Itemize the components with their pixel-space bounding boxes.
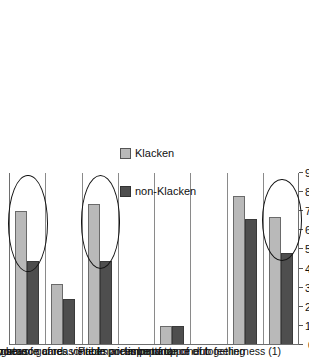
bar-klacken xyxy=(269,217,281,345)
axis-tick-label: 90 xyxy=(305,167,309,179)
bar-group: Importance of club feeling xyxy=(227,196,263,345)
legend-item: Klacken xyxy=(120,147,196,159)
axis-tick xyxy=(299,210,303,211)
legend-label: non-Klacken xyxy=(135,185,196,197)
legend-label: Klacken xyxy=(135,147,174,159)
bar-group: Knowledge of the game xyxy=(9,211,45,345)
bar-klacken xyxy=(88,204,100,345)
axis-tick-label: 30 xyxy=(305,282,309,294)
axis-tick-label: 40 xyxy=(305,263,309,275)
chart-legend: Klackennon-Klacken xyxy=(120,147,196,197)
bar-non-klacken xyxy=(63,299,75,345)
axis-tick xyxy=(299,268,303,269)
bar-non-klacken xyxy=(100,261,112,345)
axis-tick xyxy=(299,306,303,307)
axis-tick-label: 20 xyxy=(305,301,309,313)
axis-tick xyxy=(299,191,303,192)
bar-non-klacken xyxy=(245,219,257,345)
bar-klacken xyxy=(233,196,245,345)
bar-group: Prices are important xyxy=(154,326,190,345)
axis-tick-label: 10 xyxy=(305,320,309,332)
bar-non-klacken xyxy=(281,253,293,345)
bar-klacken xyxy=(51,284,63,345)
bar-non-klacken xyxy=(172,326,184,345)
axis-tick-label: 80 xyxy=(305,186,309,198)
legend-item: non-Klacken xyxy=(120,185,196,197)
axis-tick xyxy=(299,229,303,230)
category-separator xyxy=(118,173,119,345)
axis-tick-label: 70 xyxy=(305,205,309,217)
category-label: Importance of togetherness (1) xyxy=(137,345,281,357)
bar-group: Importance of togetherness (1) xyxy=(263,217,299,345)
light-gray-swatch xyxy=(120,148,131,159)
chart-stage: Knowledge of the gameWould buy season ca… xyxy=(0,0,309,361)
axis-tick-label: 60 xyxy=(305,224,309,236)
axis-tick xyxy=(299,172,303,173)
bar-group: Would buy season card xyxy=(45,284,81,345)
plot-area: Knowledge of the gameWould buy season ca… xyxy=(9,173,299,345)
bar-group: Number of games visited xyxy=(82,204,118,345)
bar-non-klacken xyxy=(27,261,39,345)
dark-gray-swatch xyxy=(120,186,131,197)
category-separator xyxy=(154,173,155,345)
bar-klacken xyxy=(15,211,27,345)
bar-klacken xyxy=(160,326,172,345)
axis-tick xyxy=(299,248,303,249)
axis-tick xyxy=(299,325,303,326)
axis-tick xyxy=(299,344,303,345)
axis-tick-label: 50 xyxy=(305,243,309,255)
bar-chart-figure: Knowledge of the gameWould buy season ca… xyxy=(0,0,309,361)
axis-tick-label: 0 xyxy=(308,339,309,351)
category-separator xyxy=(190,173,191,345)
axis-tick xyxy=(299,287,303,288)
